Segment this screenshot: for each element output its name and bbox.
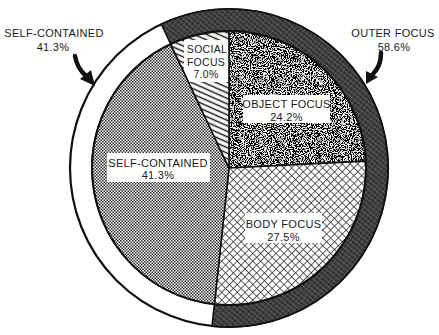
arrow-left-icon bbox=[75, 56, 95, 86]
social-focus-label-line1: SOCIAL bbox=[187, 43, 227, 55]
object-focus-label: OBJECT FOCUS bbox=[242, 98, 330, 110]
outer-focus-value: 58.6% bbox=[378, 41, 411, 53]
chart-canvas: OBJECT FOCUS 24.2% SELF-CONTAINED 41.3% … bbox=[0, 0, 439, 335]
social-focus-label-line2: FOCUS bbox=[187, 56, 225, 68]
social-focus-value: 7.0% bbox=[193, 68, 218, 80]
self-contained-value: 41.3% bbox=[142, 169, 175, 181]
pie-chart: OBJECT FOCUS 24.2% SELF-CONTAINED 41.3% … bbox=[0, 0, 439, 335]
outer-focus-label: OUTER FOCUS bbox=[351, 27, 434, 39]
self-contained-label: SELF-CONTAINED bbox=[108, 157, 207, 169]
outer-self-contained-value: 41.3% bbox=[37, 41, 70, 53]
body-focus-value: 27.5% bbox=[267, 231, 300, 243]
outer-self-contained-label: SELF-CONTAINED bbox=[4, 27, 103, 39]
object-focus-value: 24.2% bbox=[270, 111, 303, 123]
body-focus-label: BODY FOCUS bbox=[246, 218, 322, 230]
arrow-right-icon bbox=[366, 53, 381, 84]
